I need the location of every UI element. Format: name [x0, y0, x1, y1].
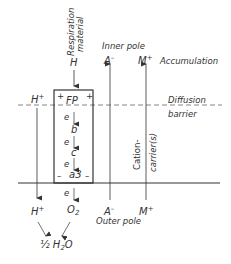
charge-minus-right: –	[85, 172, 89, 181]
carrier-c: c	[71, 148, 77, 158]
respiration-material-label: Respiration material	[67, 8, 85, 56]
electron-4: e	[64, 189, 69, 198]
oxygen: O2	[67, 205, 79, 218]
carrier-fp: FP	[66, 96, 78, 106]
inner-pole-label: Inner pole	[102, 42, 145, 51]
water: ½ H2O	[40, 240, 73, 253]
respiration-line2: material	[76, 8, 85, 56]
diffusion-label: Diffusion	[168, 96, 206, 105]
cation-carrier-line1: Cation-	[133, 140, 142, 171]
charge-plus-left: +	[57, 92, 64, 101]
cation-carrier-line2: carrier(s)	[149, 133, 158, 172]
carrier-b: b	[71, 125, 77, 135]
charge-minus-left: –	[57, 172, 61, 181]
diagram: Respiration material H + + FP e b e c e …	[0, 0, 231, 264]
anion-top: A–	[104, 53, 114, 66]
proton-top: H+	[31, 92, 44, 105]
charge-plus-right: +	[86, 92, 93, 101]
electron-1: e	[64, 113, 69, 122]
accumulation-label: Accumulation	[160, 57, 218, 66]
electron-3: e	[64, 160, 69, 169]
cation-bottom: M+	[139, 204, 154, 217]
substrate-h: H	[70, 58, 78, 68]
barrier-label: barrier	[168, 110, 197, 119]
electron-2: e	[64, 138, 69, 147]
carrier-a3: a3	[69, 170, 82, 180]
proton-bottom: H+	[31, 204, 44, 217]
cation-top: M+	[138, 53, 153, 66]
outer-pole-label: Outer pole	[96, 217, 141, 226]
